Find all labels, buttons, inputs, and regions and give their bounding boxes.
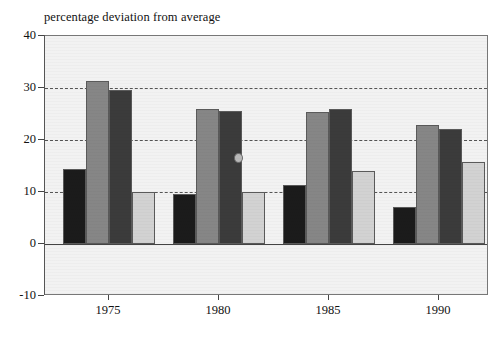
bar-group: [283, 36, 375, 296]
bar: [462, 162, 485, 244]
y-tick-label: 40: [0, 28, 36, 43]
bar-group: [63, 36, 155, 296]
bar: [109, 90, 132, 244]
bar: [306, 112, 329, 244]
x-tick-label: 1975: [73, 303, 143, 318]
bar: [86, 81, 109, 244]
y-tick-mark: [38, 87, 44, 88]
y-tick-label: 0: [0, 236, 36, 251]
bar: [196, 109, 219, 244]
y-tick-label: 20: [0, 132, 36, 147]
bar: [242, 192, 265, 244]
y-tick-mark: [38, 295, 44, 296]
bar: [329, 109, 352, 244]
y-tick-mark: [38, 243, 44, 244]
scan-blemish-icon: [234, 153, 243, 163]
bar: [283, 185, 306, 244]
y-axis: [44, 35, 45, 295]
bar: [439, 129, 462, 244]
bar: [393, 207, 416, 244]
zero-baseline: [45, 244, 487, 245]
bar: [352, 171, 375, 244]
x-tick-label: 1990: [403, 303, 473, 318]
bar: [173, 194, 196, 244]
chart-title: percentage deviation from average: [44, 10, 220, 25]
bar-chart: percentage deviation from average 403020…: [0, 0, 499, 337]
bar: [63, 169, 86, 244]
y-tick-label: 30: [0, 80, 36, 95]
bar: [219, 111, 242, 244]
bar: [132, 192, 155, 244]
bar: [416, 125, 439, 244]
y-tick-label: -10: [0, 288, 36, 303]
x-tick-label: 1985: [293, 303, 363, 318]
y-tick-label: 10: [0, 184, 36, 199]
y-tick-mark: [38, 191, 44, 192]
x-tick-label: 1980: [183, 303, 253, 318]
plot-area: [44, 35, 488, 295]
bar-group: [393, 36, 485, 296]
bar-group: [173, 36, 265, 296]
y-tick-mark: [38, 139, 44, 140]
y-tick-mark: [38, 35, 44, 36]
